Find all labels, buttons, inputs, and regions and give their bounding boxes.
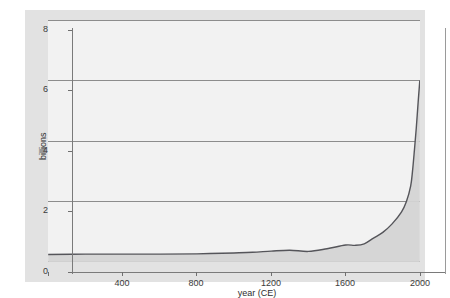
xtick-label-1200: 1200 [261, 278, 281, 288]
xtick-mark-0 [48, 272, 49, 276]
y-axis-title: billions [38, 132, 48, 160]
y-axis-line [72, 28, 73, 274]
xtick-label-400: 400 [114, 278, 129, 288]
chart-figure: 8 6 4 2 0 400 800 1200 1600 2000 billion… [25, 10, 425, 282]
ytick-label-8: 8 [32, 24, 48, 34]
ytick-mark-4 [68, 151, 72, 152]
ytick-label-0: 0 [32, 266, 48, 276]
ytick-mark-6 [68, 90, 72, 91]
population-area-fill [48, 81, 420, 263]
xtick-mark-800 [196, 272, 197, 276]
xtick-mark-1600 [345, 272, 346, 276]
xtick-label-1600: 1600 [335, 278, 355, 288]
xtick-mark-2000 [420, 272, 421, 276]
population-curve-svg [48, 20, 420, 262]
ytick-mark-2 [68, 211, 72, 212]
xtick-label-2000: 2000 [410, 278, 430, 288]
right-spine [445, 28, 446, 274]
ytick-label-2: 2 [32, 205, 48, 215]
ytick-mark-0 [68, 272, 72, 273]
x-axis-line [72, 272, 446, 273]
population-curve-line [48, 81, 420, 255]
xtick-label-800: 800 [188, 278, 203, 288]
x-axis-title: year (CE) [238, 288, 277, 298]
ytick-label-6: 6 [32, 84, 48, 94]
ytick-mark-8 [68, 30, 72, 31]
plot-area [48, 20, 420, 262]
xtick-mark-1200 [271, 272, 272, 276]
xtick-mark-400 [122, 272, 123, 276]
